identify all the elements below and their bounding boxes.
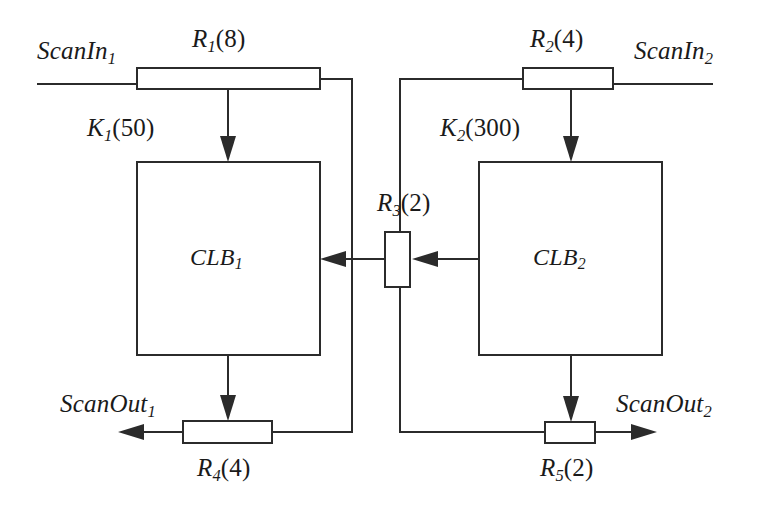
arrowhead-r3-to-clb1	[320, 251, 346, 267]
register-label-r4: R4(4)	[197, 455, 251, 484]
port-label-scanout2: ScanOut2	[616, 391, 712, 420]
register-label-r1: R1(8)	[192, 26, 246, 55]
diagram-canvas: ScanIn1 R1(8) K1(50) CLB1 ScanOut1 R4(4)…	[0, 0, 769, 509]
arrowhead-clb2-to-r3	[412, 251, 438, 267]
arrowhead-clb1-to-r4	[220, 395, 236, 421]
diagram-drawing	[0, 0, 769, 509]
register-r2-box	[523, 68, 613, 89]
constant-label-k2: K2(300)	[440, 115, 520, 144]
arrowhead-scanout2	[631, 424, 657, 440]
arrowhead-clb2-to-r5	[563, 396, 579, 422]
register-r1-box	[137, 68, 320, 89]
port-label-scanin2: ScanIn2	[634, 38, 713, 67]
block-label-clb1: CLB1	[190, 245, 243, 272]
arrowhead-scanout1	[118, 424, 144, 440]
constant-label-k1: K1(50)	[87, 115, 155, 144]
register-r5-box	[545, 422, 595, 443]
port-label-scanout1: ScanOut1	[60, 391, 156, 420]
register-label-r3: R3(2)	[377, 190, 431, 219]
register-r4-box	[183, 421, 272, 443]
port-label-scanin1: ScanIn1	[37, 38, 116, 67]
arrowhead-r1-to-clb1	[220, 136, 236, 162]
arrowhead-r2-to-clb2	[563, 136, 579, 162]
block-label-clb2: CLB2	[533, 245, 586, 272]
register-label-r2: R2(4)	[530, 26, 584, 55]
register-label-r5: R5(2)	[540, 455, 594, 484]
register-r3-box	[385, 232, 410, 287]
